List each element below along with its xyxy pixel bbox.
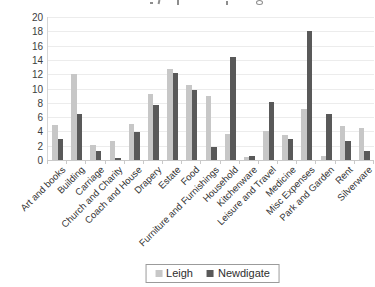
y-axis-label-0: 0 xyxy=(16,155,43,166)
bar-newdigate-church-and-charity xyxy=(115,158,121,160)
bar-newdigate-medicine xyxy=(288,139,294,160)
leigh-swatch-icon xyxy=(155,270,162,277)
legend-label-newdigate: Newdigate xyxy=(218,267,270,279)
legend-label-leigh: Leigh xyxy=(166,267,193,279)
y-axis-label-18: 18 xyxy=(16,26,43,37)
bar-newdigate-misc-expenses xyxy=(307,31,313,160)
bar-newdigate-kitchenware xyxy=(249,156,255,160)
x-axis-tick xyxy=(162,160,163,164)
gridline-16 xyxy=(48,46,374,47)
bar-newdigate-food xyxy=(192,90,198,160)
x-axis-tick xyxy=(373,160,374,164)
y-axis-label-14: 14 xyxy=(16,55,43,66)
y-axis-label-2: 2 xyxy=(16,141,43,152)
newdigate-swatch-icon xyxy=(207,270,214,277)
gridline-8 xyxy=(48,103,374,104)
bar-newdigate-coach-and-house xyxy=(134,132,140,160)
bar-newdigate-building xyxy=(77,114,83,160)
gridline-12 xyxy=(48,74,374,75)
y-axis-label-16: 16 xyxy=(16,41,43,52)
y-axis-label-12: 12 xyxy=(16,69,43,80)
bar-newdigate-silverware xyxy=(364,151,370,160)
x-axis-tick xyxy=(335,160,336,164)
legend-item-newdigate: Newdigate xyxy=(207,267,270,279)
legend: Leigh Newdigate xyxy=(145,264,280,283)
gridline-10 xyxy=(48,89,374,90)
gridline-18 xyxy=(48,31,374,32)
x-axis-tick xyxy=(47,160,48,164)
y-axis-label-6: 6 xyxy=(16,112,43,123)
x-axis-tick xyxy=(124,160,125,164)
bar-newdigate-household xyxy=(230,57,236,160)
bar-newdigate-carriage xyxy=(96,151,102,160)
gridline-14 xyxy=(48,60,374,61)
bar-chart-figure: 02468101214161820Art and booksBuildingCa… xyxy=(0,0,375,287)
x-axis-tick xyxy=(181,160,182,164)
bar-newdigate-leisure-and-travel xyxy=(269,102,275,160)
x-axis-tick xyxy=(296,160,297,164)
x-axis-tick xyxy=(200,160,201,164)
y-axis-label-8: 8 xyxy=(16,98,43,109)
x-axis-tick xyxy=(277,160,278,164)
x-axis-tick xyxy=(66,160,67,164)
legend-item-leigh: Leigh xyxy=(155,267,193,279)
x-axis-tick xyxy=(315,160,316,164)
x-axis-tick xyxy=(143,160,144,164)
gridline-20 xyxy=(48,17,374,18)
y-axis-label-20: 20 xyxy=(16,12,43,23)
x-axis-tick xyxy=(220,160,221,164)
x-axis-tick xyxy=(258,160,259,164)
x-axis-tick xyxy=(354,160,355,164)
y-axis-label-10: 10 xyxy=(16,84,43,95)
bar-newdigate-estate xyxy=(173,73,179,160)
bar-newdigate-park-and-garden xyxy=(326,114,332,160)
bar-newdigate-art-and-books xyxy=(58,139,64,160)
x-axis-tick xyxy=(105,160,106,164)
plot-area xyxy=(47,17,374,161)
bar-newdigate-furniture-and-furnishings xyxy=(211,147,217,160)
bar-newdigate-drapery xyxy=(153,105,159,160)
bar-newdigate-rent xyxy=(345,141,351,160)
y-axis-label-4: 4 xyxy=(16,126,43,137)
x-axis-tick xyxy=(239,160,240,164)
x-axis-tick xyxy=(85,160,86,164)
